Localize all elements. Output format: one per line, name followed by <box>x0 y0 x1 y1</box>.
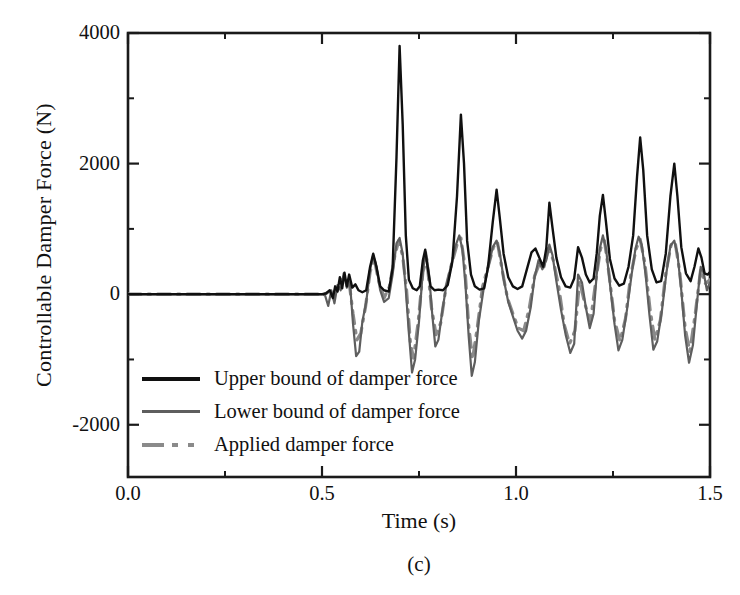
legend-item: Lower bound of damper force <box>140 395 520 428</box>
y-tick-label: 4000 <box>10 22 120 43</box>
legend-line-swatch <box>140 372 202 386</box>
legend-line-swatch <box>140 405 202 419</box>
x-tick-label: 1.5 <box>670 482 740 505</box>
legend-item: Upper bound of damper force <box>140 362 520 395</box>
x-axis-title: Time (s) <box>128 508 710 534</box>
panel-caption: (c) <box>128 552 710 577</box>
legend-label: Applied damper force <box>214 434 394 455</box>
legend-item: Applied damper force <box>140 428 520 461</box>
x-tick-label: 1.0 <box>476 482 556 505</box>
legend-line-swatch <box>140 438 202 452</box>
chart-legend: Upper bound of damper forceLower bound o… <box>140 362 520 461</box>
legend-label: Upper bound of damper force <box>214 368 458 389</box>
y-axis-title: Controllable Damper Force (N) <box>31 35 57 455</box>
figure-panel: Controllable Damper Force (N) -200002000… <box>0 0 740 595</box>
legend-label: Lower bound of damper force <box>214 401 460 422</box>
x-tick-label: 0.5 <box>282 482 362 505</box>
y-tick-label: 2000 <box>10 153 120 174</box>
x-tick-label: 0.0 <box>88 482 168 505</box>
series-line <box>128 46 710 298</box>
y-tick-label: -2000 <box>10 414 120 435</box>
y-tick-label: 0 <box>10 283 120 304</box>
